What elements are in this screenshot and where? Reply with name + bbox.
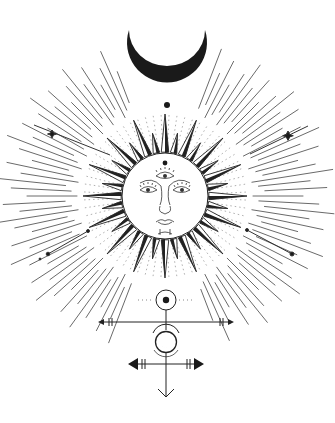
star-icon xyxy=(283,131,294,140)
celestial-artwork xyxy=(0,0,335,423)
sun-face-icon xyxy=(122,153,208,239)
illustration: Celestial sun and moon line illustration xyxy=(0,0,335,423)
crescent-moon-icon xyxy=(127,30,207,108)
